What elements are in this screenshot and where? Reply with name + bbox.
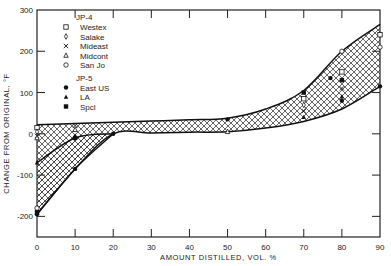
data-point-east-us bbox=[111, 132, 115, 136]
legend-entry-label: LA bbox=[80, 93, 90, 102]
legend-entry-label: San Jo bbox=[80, 61, 105, 70]
legend-entry-label: Spcl bbox=[80, 103, 96, 112]
data-point-spcl bbox=[73, 136, 77, 140]
data-point-san-jo bbox=[340, 49, 344, 53]
x-tick-label: 50 bbox=[223, 243, 232, 252]
legend-marker-filled-circle bbox=[64, 85, 68, 89]
data-point-east-us bbox=[340, 99, 344, 103]
legend-marker-open-square bbox=[64, 25, 68, 29]
legend-marker-x bbox=[64, 44, 68, 48]
legend: JP-4WestexSalakeMideastMidcontSan JoJP-5… bbox=[64, 13, 110, 112]
legend-entry-label: Westex bbox=[80, 23, 107, 32]
data-point-east-us bbox=[73, 167, 77, 171]
legend-entry-label: East US bbox=[80, 84, 109, 93]
x-tick-label: 30 bbox=[147, 243, 156, 252]
legend-marker-open-diamond bbox=[64, 34, 67, 40]
y-axis-title: CHANGE FROM ORIGINAL, °F bbox=[2, 73, 11, 193]
legend-group-title: JP-4 bbox=[76, 13, 93, 22]
x-tick-label: 20 bbox=[109, 243, 118, 252]
legend-entry-label: Midcont bbox=[80, 52, 109, 61]
chart: 0102030405060708090 -200-1000100200300 J… bbox=[0, 0, 391, 266]
x-tick-label: 60 bbox=[261, 243, 270, 252]
data-point-westex bbox=[378, 33, 382, 37]
x-tick-label: 0 bbox=[35, 243, 40, 252]
y-tick-label: 300 bbox=[20, 6, 34, 15]
data-point-spcl bbox=[340, 78, 344, 82]
legend-marker-filled-square bbox=[64, 104, 68, 108]
data-point-westex bbox=[340, 70, 344, 74]
y-tick-label: 100 bbox=[20, 89, 34, 98]
legend-marker-open-triangle bbox=[64, 53, 68, 57]
data-point-san-jo bbox=[378, 45, 382, 49]
data-point-east-us bbox=[378, 84, 382, 88]
data-point-westex bbox=[302, 97, 306, 101]
x-tick-label: 90 bbox=[376, 243, 385, 252]
y-tick-label: 200 bbox=[20, 47, 34, 56]
legend-entry-label: Salake bbox=[80, 33, 105, 42]
legend-marker-open-circle bbox=[64, 63, 68, 67]
x-tick-label: 10 bbox=[71, 243, 80, 252]
x-tick-label: 40 bbox=[185, 243, 194, 252]
data-point-spcl bbox=[302, 90, 306, 94]
legend-entry-label: Mideast bbox=[80, 42, 109, 51]
data-point-san-jo bbox=[35, 206, 39, 210]
data-point-east-us bbox=[225, 117, 229, 121]
legend-group-title: JP-5 bbox=[76, 74, 93, 83]
x-axis-title: AMOUNT DISTILLED, VOL. % bbox=[160, 253, 277, 262]
y-tick-label: -100 bbox=[17, 171, 34, 180]
data-point-east-us bbox=[328, 76, 332, 80]
y-tick-label: 0 bbox=[29, 130, 34, 139]
x-tick-label: 70 bbox=[299, 243, 308, 252]
y-tick-label: -200 bbox=[17, 212, 34, 221]
data-point-spcl bbox=[35, 210, 39, 214]
legend-marker-filled-triangle bbox=[64, 94, 68, 98]
x-tick-label: 80 bbox=[337, 243, 346, 252]
